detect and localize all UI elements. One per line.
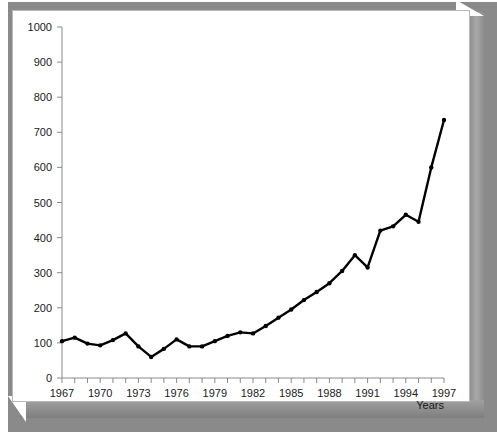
y-tick-label: 700 — [34, 126, 52, 138]
data-point — [264, 324, 268, 328]
x-tick-label: 1979 — [203, 387, 227, 399]
y-tick-label: 600 — [34, 161, 52, 173]
data-point — [60, 339, 64, 343]
data-point — [302, 298, 306, 302]
y-tick-label: 0 — [46, 372, 52, 384]
data-point — [442, 118, 446, 122]
data-point — [353, 253, 357, 257]
data-series-line — [62, 120, 444, 357]
y-tick-label: 100 — [34, 337, 52, 349]
y-tick-label: 400 — [34, 232, 52, 244]
data-point — [200, 344, 204, 348]
data-point — [416, 220, 420, 224]
data-point — [111, 338, 115, 342]
data-point — [391, 224, 395, 228]
y-tick-label: 800 — [34, 91, 52, 103]
x-axis-tick-group — [62, 378, 444, 383]
data-point — [85, 341, 89, 345]
x-tick-label: 1976 — [164, 387, 188, 399]
chart-figure: 01002003004005006007008009001000 1967197… — [0, 0, 497, 440]
y-axis-tick-group — [57, 27, 62, 378]
y-tick-label: 1000 — [28, 21, 52, 33]
y-tick-label: 900 — [34, 56, 52, 68]
data-point — [314, 290, 318, 294]
data-point — [123, 331, 127, 335]
data-point — [276, 315, 280, 319]
data-point — [136, 344, 140, 348]
x-tick-label: 1982 — [241, 387, 265, 399]
x-tick-label: 1988 — [317, 387, 341, 399]
data-point — [225, 334, 229, 338]
data-point — [238, 330, 242, 334]
data-point — [251, 331, 255, 335]
y-tick-label: 500 — [34, 197, 52, 209]
data-point — [98, 343, 102, 347]
x-tick-label: 1991 — [355, 387, 379, 399]
data-point — [289, 307, 293, 311]
data-point — [162, 347, 166, 351]
y-axis-labels: 01002003004005006007008009001000 — [28, 21, 52, 384]
data-point — [327, 281, 331, 285]
x-tick-label: 1997 — [432, 387, 456, 399]
data-point — [340, 269, 344, 273]
y-tick-label: 300 — [34, 267, 52, 279]
data-point — [378, 228, 382, 232]
x-tick-label: 1970 — [88, 387, 112, 399]
data-point — [429, 165, 433, 169]
data-point — [149, 355, 153, 359]
data-point — [365, 265, 369, 269]
data-point — [213, 339, 217, 343]
data-point — [187, 344, 191, 348]
data-point — [404, 213, 408, 217]
line-chart-svg: 01002003004005006007008009001000 1967197… — [0, 0, 497, 440]
y-tick-label: 200 — [34, 302, 52, 314]
x-tick-label: 1985 — [279, 387, 303, 399]
data-point-markers — [60, 118, 446, 359]
x-axis-labels: 1967197019731976197919821985198819911994… — [50, 387, 456, 399]
plot-area: 01002003004005006007008009001000 1967197… — [0, 0, 497, 440]
x-tick-label: 1994 — [394, 387, 418, 399]
x-tick-label: 1973 — [126, 387, 150, 399]
data-point — [73, 335, 77, 339]
x-tick-label: 1967 — [50, 387, 74, 399]
x-axis-title: Years — [416, 399, 444, 411]
data-point — [174, 337, 178, 341]
